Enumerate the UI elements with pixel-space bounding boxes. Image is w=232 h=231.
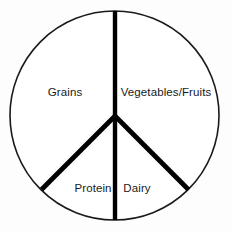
food-groups-diagram: Grains Vegetables/Fruits Protein Dairy: [0, 0, 232, 231]
slice-label-vegetables-fruits: Vegetables/Fruits: [121, 86, 212, 98]
peace-symbol-pie-chart: [0, 0, 232, 231]
slice-label-protein: Protein: [74, 182, 111, 194]
slice-label-grains: Grains: [48, 86, 82, 98]
slice-label-dairy: Dairy: [123, 182, 150, 194]
